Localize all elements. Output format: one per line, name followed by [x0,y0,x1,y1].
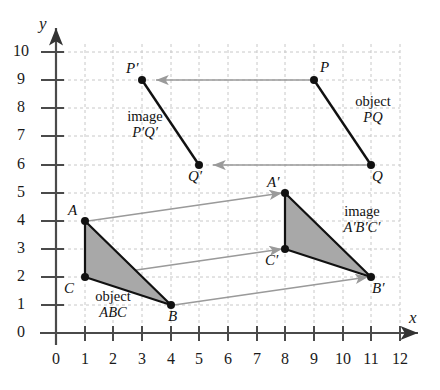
annotation-object-abc-math: ABC [78,304,148,320]
annotation-object-abc: object ABC [78,288,148,320]
x-tick-9: 9 [300,350,328,368]
y-tick-5: 5 [8,183,34,201]
label-a-prime: A′ [267,174,279,191]
annotation-image-abc: image A′B′C′ [322,203,402,235]
x-tick-6: 6 [214,350,242,368]
label-p: P [320,59,329,76]
point-p-prime [138,76,146,84]
point-c-prime [281,245,289,253]
y-tick-7: 7 [8,126,34,144]
label-a: A [68,202,77,219]
x-axis [40,326,418,341]
point-p [310,76,318,84]
label-q: Q [372,168,383,185]
mapping-arrow-b [174,277,368,305]
annotation-image-abc-word: image [322,203,402,219]
x-tick-7: 7 [243,350,271,368]
annotation-image-pq-math: P′Q′ [112,124,178,140]
x-tick-0: 0 [42,350,70,368]
x-axis-label: x [409,308,417,328]
x-tick-5: 5 [185,350,213,368]
annotation-object-pq: object PQ [340,93,406,125]
point-a-prime [281,189,289,197]
point-a [81,217,89,225]
y-axis-label: y [39,14,47,34]
label-p-prime: P′ [126,60,138,77]
y-tick-6: 6 [8,155,34,173]
y-tick-1: 1 [8,295,34,313]
x-tick-10: 10 [329,350,357,368]
y-tick-0: 0 [8,323,34,341]
y-tick-9: 9 [8,70,34,88]
label-c: C [64,280,74,297]
annotation-image-abc-math: A′B′C′ [322,219,402,235]
x-tick-3: 3 [128,350,156,368]
annotation-object-pq-word: object [340,93,406,109]
annotation-object-pq-math: PQ [340,109,406,125]
coordinate-diagram: 10 9 8 7 6 5 4 3 2 1 0 0 1 2 3 4 5 6 7 8… [0,0,440,390]
label-b: B [168,308,177,325]
y-tick-3: 3 [8,239,34,257]
x-tick-4: 4 [157,350,185,368]
y-tick-2: 2 [8,267,34,285]
annotation-image-pq: image P′Q′ [112,108,178,140]
y-tick-4: 4 [8,211,34,229]
y-axis [41,28,64,345]
x-tick-2: 2 [99,350,127,368]
label-c-prime: C′ [265,252,278,269]
label-b-prime: B′ [372,280,384,297]
plot-canvas [0,0,440,390]
x-tick-1: 1 [71,350,99,368]
x-tick-11: 11 [357,350,385,368]
x-tick-8: 8 [271,350,299,368]
point-c [81,273,89,281]
y-tick-8: 8 [8,98,34,116]
y-tick-10: 10 [8,42,34,60]
annotation-image-pq-word: image [112,108,178,124]
x-tick-12: 12 [386,350,414,368]
annotation-object-abc-word: object [78,288,148,304]
mapping-arrow-a [88,193,282,221]
label-q-prime: Q′ [188,168,202,185]
